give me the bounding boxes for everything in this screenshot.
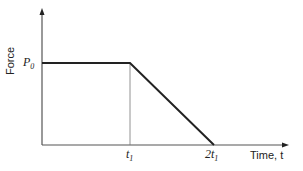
x-axis-arrow-icon xyxy=(282,143,289,148)
p0-tick-label: P0 xyxy=(23,55,34,71)
y-axis-label: Force xyxy=(4,47,16,75)
force-time-diagram xyxy=(0,0,303,171)
2t1-main: 2t xyxy=(205,147,214,161)
2t1-tick-label: 2t1 xyxy=(205,147,218,163)
force-curve xyxy=(42,63,214,145)
p0-sub: 0 xyxy=(30,62,34,71)
y-axis-arrow-icon xyxy=(40,8,45,15)
t1-sub: 1 xyxy=(129,154,133,163)
2t1-sub: 1 xyxy=(214,154,218,163)
t1-tick-label: t1 xyxy=(126,147,133,163)
x-axis-label: Time, t xyxy=(250,149,283,161)
